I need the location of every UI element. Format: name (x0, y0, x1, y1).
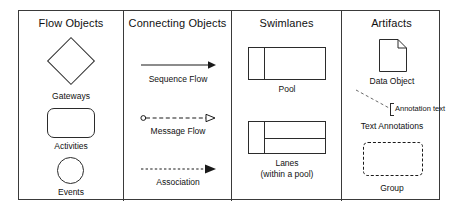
annotation-leader-line-icon (355, 89, 393, 111)
caption-text-annotations: Text Annotations (342, 121, 442, 131)
caption-events: Events (19, 187, 123, 197)
annotation-text-label: Annotation text (395, 104, 445, 113)
caption-association: Association (124, 177, 232, 187)
column-title-flow-objects: Flow Objects (19, 17, 123, 29)
caption-pool: Pool (232, 84, 342, 94)
activity-rounded-rectangle-icon (47, 108, 95, 138)
caption-activities: Activities (19, 141, 123, 151)
event-circle-icon (57, 157, 84, 184)
sequence-flow-solid-arrow-icon (140, 59, 218, 71)
annotation-bracket-icon (390, 103, 394, 116)
column-flow-objects: Flow Objects Gateways Activities Events (19, 11, 123, 201)
pool-header-divider (264, 48, 265, 79)
column-connecting-objects: Connecting Objects Sequence Flow Message… (123, 11, 231, 201)
lanes-icon (248, 121, 326, 154)
group-dashed-rounded-rectangle-icon (363, 142, 423, 176)
lane-separator (264, 138, 325, 139)
caption-lanes: Lanes (232, 158, 342, 168)
caption-data-object: Data Object (342, 76, 442, 86)
caption-message-flow: Message Flow (124, 126, 232, 136)
data-object-document-icon (379, 39, 407, 72)
diagram-frame: Flow Objects Gateways Activities Events … (18, 10, 440, 200)
message-flow-dashed-open-arrow-icon (140, 112, 218, 124)
caption-group: Group (342, 183, 442, 193)
caption-sequence-flow: Sequence Flow (124, 74, 232, 84)
pool-icon (248, 47, 326, 80)
gateway-diamond-icon (47, 37, 95, 85)
bpmn-notation-diagram: Flow Objects Gateways Activities Events … (0, 0, 457, 214)
column-title-artifacts: Artifacts (342, 17, 441, 29)
column-artifacts: Artifacts Data Object Annotation text Te… (341, 11, 441, 201)
column-swimlanes: Swimlanes Pool Lanes (within a pool) (231, 11, 341, 201)
caption-gateways: Gateways (19, 91, 123, 101)
column-title-swimlanes: Swimlanes (232, 17, 341, 29)
column-title-connecting-objects: Connecting Objects (124, 17, 231, 29)
caption-lanes-sub: (within a pool) (232, 169, 342, 179)
association-dotted-arrow-icon (140, 163, 218, 175)
